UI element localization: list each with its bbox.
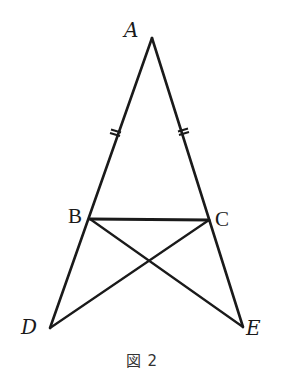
triangle-diagram [0, 0, 284, 391]
segment-BC [90, 219, 209, 220]
label-C: C [215, 209, 229, 230]
segment-AE [152, 38, 243, 327]
figure-caption: 図 2 [0, 349, 284, 370]
segment-CD [50, 220, 209, 328]
label-B: B [68, 206, 82, 227]
label-A: A [124, 20, 138, 40]
equal-length-marks [110, 129, 189, 137]
geometry-figure: A B C D E 図 2 [0, 0, 284, 391]
label-E: E [246, 318, 261, 338]
label-D: D [21, 317, 37, 337]
segment-BE [90, 219, 243, 327]
segment-AD [50, 38, 152, 328]
